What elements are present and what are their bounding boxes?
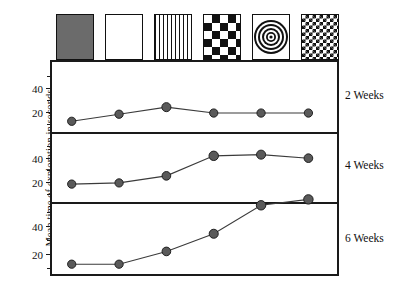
figure-panel-chart: Mean time of exploration in seconds 40 2…	[0, 0, 395, 288]
series-6-weeks	[52, 62, 337, 274]
stimulus-card-solid-gray	[56, 14, 94, 60]
bullseye-icon	[253, 19, 289, 55]
tick-label-p3-20: 20	[32, 250, 43, 261]
tick-label-p2-20: 20	[32, 178, 43, 189]
tick-label-p1-20: 20	[32, 108, 43, 119]
panel-label-2-weeks: 2 Weeks	[345, 89, 384, 101]
tick-label-p3-40: 40	[32, 222, 43, 233]
stimulus-card-fine-checkerboard	[301, 14, 339, 60]
tick-label-p1-40: 40	[32, 84, 43, 95]
panel-label-4-weeks: 4 Weeks	[345, 159, 384, 171]
panel-label-6-weeks: 6 Weeks	[345, 232, 384, 244]
stimulus-card-coarse-checkerboard	[203, 14, 241, 60]
tick-label-p2-40: 40	[32, 154, 43, 165]
stimulus-card-vertical-stripes	[154, 14, 192, 60]
stimulus-card-plain-white	[105, 14, 143, 60]
plot-frame: 40 20 40 20	[50, 60, 339, 276]
stimulus-card-bullseye	[252, 14, 290, 60]
stimulus-card-strip	[56, 12, 339, 60]
